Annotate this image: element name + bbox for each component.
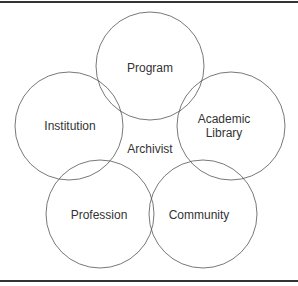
label-library: Library [206,126,243,140]
venn-diagram: Program Institution Academic Library Arc… [0,0,298,286]
label-archivist: Archivist [127,142,173,156]
label-community: Community [169,208,230,222]
label-institution: Institution [44,119,95,133]
label-academic: Academic [198,112,251,126]
label-program: Program [127,61,173,75]
label-profession: Profession [71,208,128,222]
